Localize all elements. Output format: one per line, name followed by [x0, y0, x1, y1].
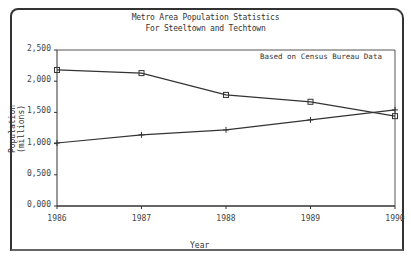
series-line-techtown [57, 110, 395, 143]
plot-area [0, 0, 411, 264]
series-line-steeltown [57, 70, 395, 116]
